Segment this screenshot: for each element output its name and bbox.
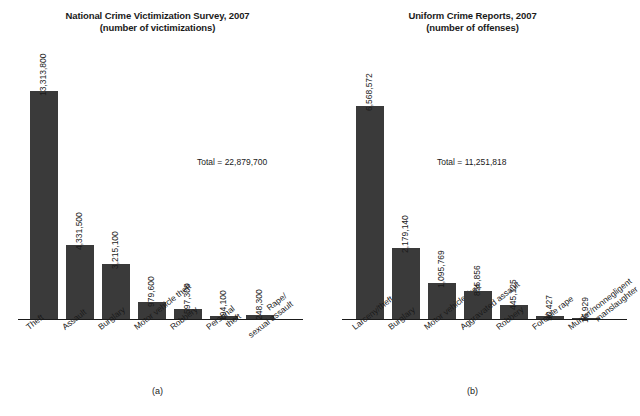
- panel-a: National Crime Victimization Survey, 200…: [0, 0, 315, 416]
- panel-b-plot-area: 6,568,572Larceny/theft2,179,140Burglary1…: [315, 0, 630, 416]
- bar-value-label: 979,600: [147, 276, 156, 307]
- category-label: Theft: [24, 312, 45, 332]
- bar-value-label: 855,856: [473, 265, 482, 296]
- bar[interactable]: [356, 106, 384, 319]
- category-label: Personaltheft: [204, 303, 243, 339]
- panel-b: Uniform Crime Reports, 2007 (number of o…: [315, 0, 630, 416]
- category-label-line: Theft: [24, 312, 45, 332]
- bar[interactable]: [30, 91, 58, 319]
- bar-value-label: 3,215,100: [111, 231, 120, 269]
- panel-b-caption: (b): [315, 386, 630, 396]
- bar-value-label: 2,179,140: [401, 215, 410, 253]
- bar-value-label: 4,331,500: [75, 212, 84, 250]
- category-label: Murder/nonnegligentmanslaughter: [566, 276, 640, 340]
- bar-value-label: 6,568,572: [365, 73, 374, 111]
- bar-value-label: 1,095,769: [437, 250, 446, 288]
- bar-value-label: 13,313,800: [39, 53, 48, 96]
- panel-a-caption: (a): [0, 386, 315, 396]
- panel-a-plot-area: 13,313,800Theft4,331,500Assault3,215,100…: [0, 0, 315, 416]
